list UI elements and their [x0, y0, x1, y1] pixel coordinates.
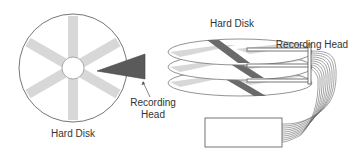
left-head-label-line1: Recording: [128, 97, 178, 109]
disk-hub: [62, 57, 84, 79]
right-disk-label: Hard Disk: [207, 18, 257, 30]
platter-stack: [168, 39, 336, 147]
right-head-label: Recording Head: [272, 39, 352, 51]
left-disk-label: Hard Disk: [48, 128, 98, 140]
left-head-label: Recording Head: [128, 97, 178, 121]
controller-box: [205, 118, 282, 147]
left-head-label-line2: Head: [128, 109, 178, 121]
